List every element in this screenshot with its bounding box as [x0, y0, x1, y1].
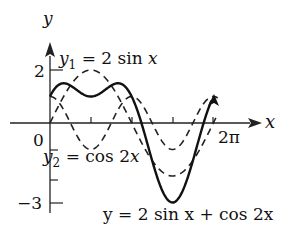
function-graph: y x 2 0 −3 2π y1 = 2 sin x y2 = cos 2x y… — [0, 0, 285, 236]
y-axis-label: y — [42, 8, 53, 28]
x-axis-arrow-icon — [248, 118, 262, 128]
x-tick-label-2pi: 2π — [218, 127, 240, 147]
x-axis-label: x — [265, 111, 275, 132]
y-tick-label-2: 2 — [34, 61, 45, 81]
y-tick-label-neg3: −3 — [17, 193, 42, 213]
sum-curve-arrow-icon — [208, 94, 219, 106]
sum-label: y = 2 sin x + cos 2x — [102, 204, 274, 224]
y1-label: y1 = 2 sin x — [58, 48, 158, 72]
curve-sum — [50, 83, 211, 202]
y-axis-arrow-icon — [45, 42, 55, 57]
